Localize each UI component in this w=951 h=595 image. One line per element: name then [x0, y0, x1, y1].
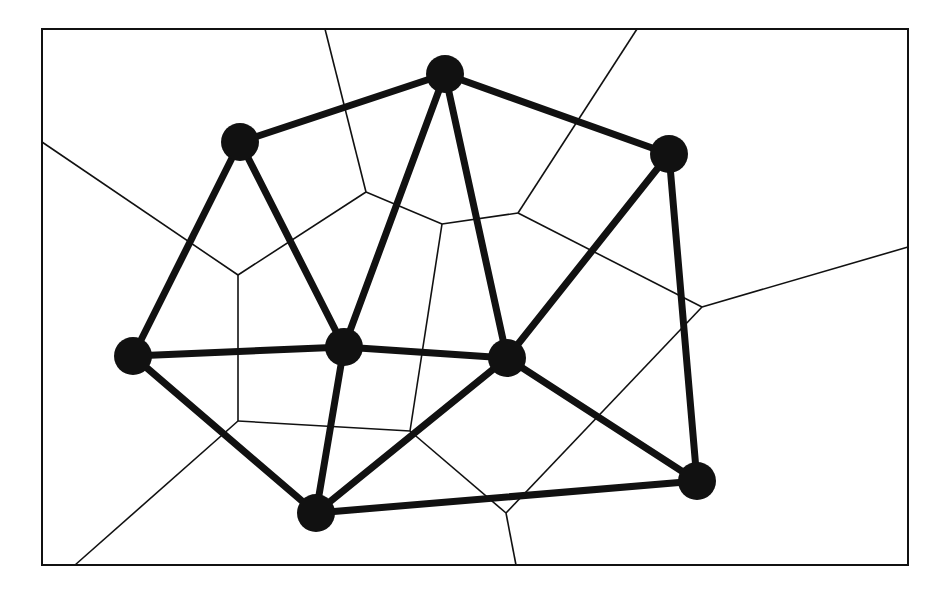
voronoi-delaunay-diagram	[0, 0, 951, 595]
delaunay-edge	[240, 74, 445, 142]
delaunay-edge	[507, 154, 669, 358]
voronoi-edges	[42, 29, 908, 565]
delaunay-edge	[507, 358, 697, 481]
delaunay-edges	[133, 74, 697, 513]
delaunay-edge	[133, 347, 344, 356]
delaunay-edge	[316, 481, 697, 513]
voronoi-edge	[702, 247, 908, 307]
nodes	[114, 55, 716, 532]
node-A	[221, 123, 259, 161]
node-F	[297, 494, 335, 532]
voronoi-edge	[506, 513, 516, 565]
node-E	[325, 328, 363, 366]
delaunay-edge	[133, 142, 240, 356]
delaunay-edge	[316, 347, 344, 513]
voronoi-edge	[75, 421, 238, 565]
node-G	[488, 339, 526, 377]
node-H	[678, 462, 716, 500]
voronoi-edge	[238, 421, 410, 431]
voronoi-edge	[410, 224, 442, 431]
node-D	[114, 337, 152, 375]
node-C	[650, 135, 688, 173]
voronoi-edge	[366, 192, 442, 224]
frame-border	[42, 29, 908, 565]
node-B	[426, 55, 464, 93]
delaunay-edge	[445, 74, 669, 154]
delaunay-edge	[344, 347, 507, 358]
delaunay-edge	[240, 142, 344, 347]
